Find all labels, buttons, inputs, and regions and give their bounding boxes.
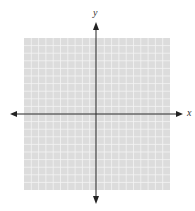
coordinate-plane	[0, 0, 195, 211]
y-axis-up-arrow-icon	[93, 22, 99, 30]
y-axis-down-arrow-icon	[93, 196, 99, 204]
y-axis-label: y	[93, 7, 97, 18]
x-axis-left-arrow-icon	[10, 111, 17, 117]
x-axis-right-arrow-icon	[176, 111, 183, 117]
x-axis-label: x	[187, 107, 191, 118]
